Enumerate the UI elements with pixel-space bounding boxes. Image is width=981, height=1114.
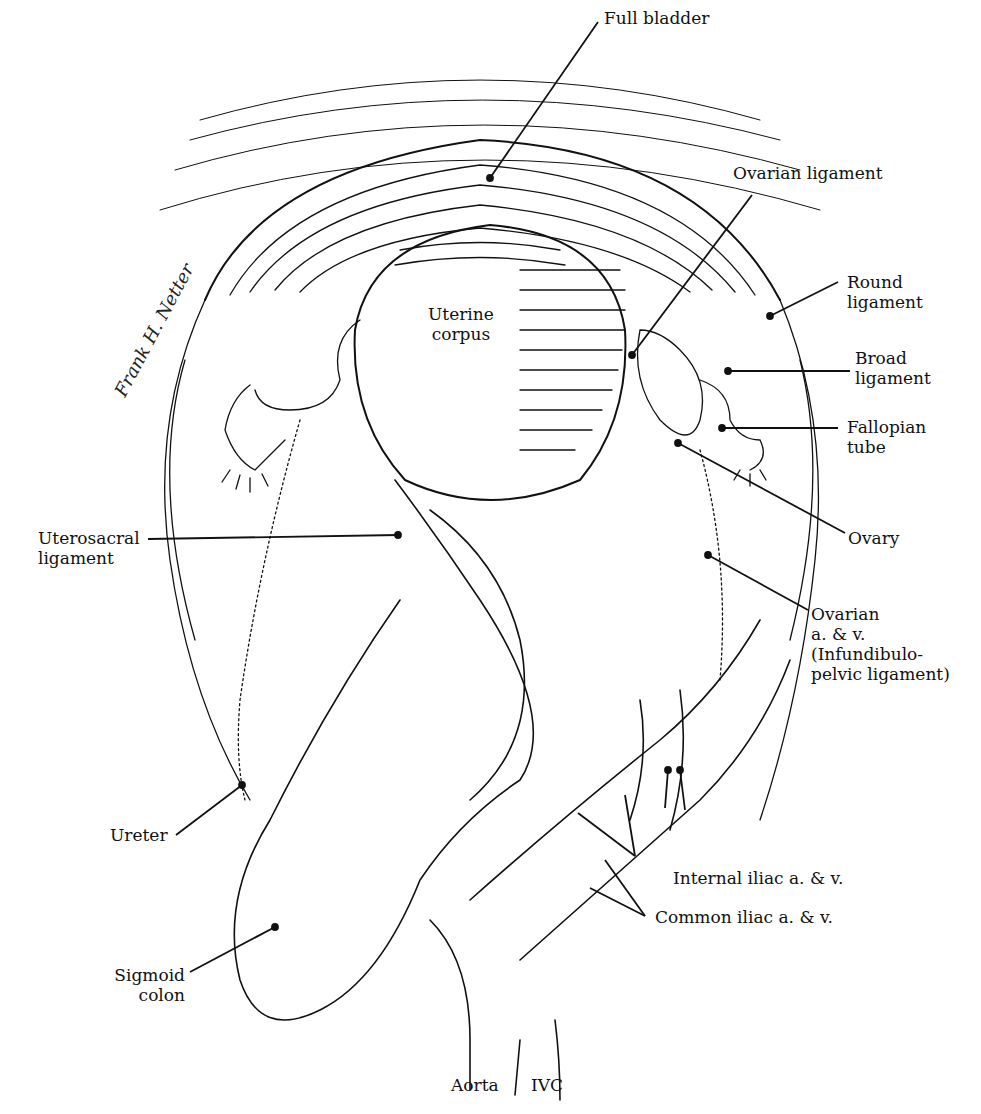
label-broad-ligament: Broad ligament (855, 348, 931, 388)
label-sigmoid-colon: Sigmoid colon (110, 965, 185, 1005)
label-ivc: IVC (531, 1075, 563, 1095)
label-aorta: Aorta (451, 1075, 499, 1095)
label-ureter: Ureter (110, 825, 168, 845)
label-internal-iliac: Internal iliac a. & v. (673, 868, 843, 888)
uterus-shape (355, 225, 626, 500)
right-ovary-shape (638, 330, 767, 486)
label-uterosacral-ligament: Uterosacral ligament (38, 528, 140, 568)
label-ovary: Ovary (848, 528, 899, 548)
bladder-shape (205, 140, 780, 300)
label-fallopian-tube: Fallopian tube (847, 417, 926, 457)
great-vessels-shape (430, 620, 790, 1100)
label-ovarian-vessels: Ovarian a. & v. (Infundibulo- pelvic lig… (811, 604, 950, 684)
sigmoid-colon-shape (234, 480, 533, 1020)
label-common-iliac: Common iliac a. & v. (655, 907, 833, 927)
left-fallopian-tube-shape (222, 320, 360, 492)
label-round-ligament: Round ligament (847, 272, 923, 312)
label-uterine-corpus: Uterine corpus (428, 304, 494, 344)
label-ovarian-ligament: Ovarian ligament (733, 163, 883, 183)
peritoneum-outline (160, 80, 820, 210)
label-full-bladder: Full bladder (604, 8, 709, 28)
